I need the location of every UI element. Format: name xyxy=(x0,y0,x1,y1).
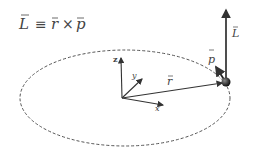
eq-times: × xyxy=(62,16,74,32)
coordinate-axes: z y x xyxy=(113,54,163,113)
equation: L ≡ r × p xyxy=(18,15,86,33)
angular-momentum-diagram: L ≡ r × p z y x r L p xyxy=(0,0,255,152)
eq-L: L xyxy=(18,15,29,33)
L-label: L xyxy=(231,27,239,40)
y-label: y xyxy=(131,71,137,80)
p-label: p xyxy=(208,53,215,66)
r-label: r xyxy=(167,75,173,88)
particle xyxy=(222,78,231,87)
z-axis xyxy=(121,58,122,98)
eq-equiv: ≡ xyxy=(35,16,47,32)
z-label: z xyxy=(113,54,118,64)
diagram-canvas: L ≡ r × p z y x r L p xyxy=(0,0,255,152)
x-label: x xyxy=(155,104,160,113)
